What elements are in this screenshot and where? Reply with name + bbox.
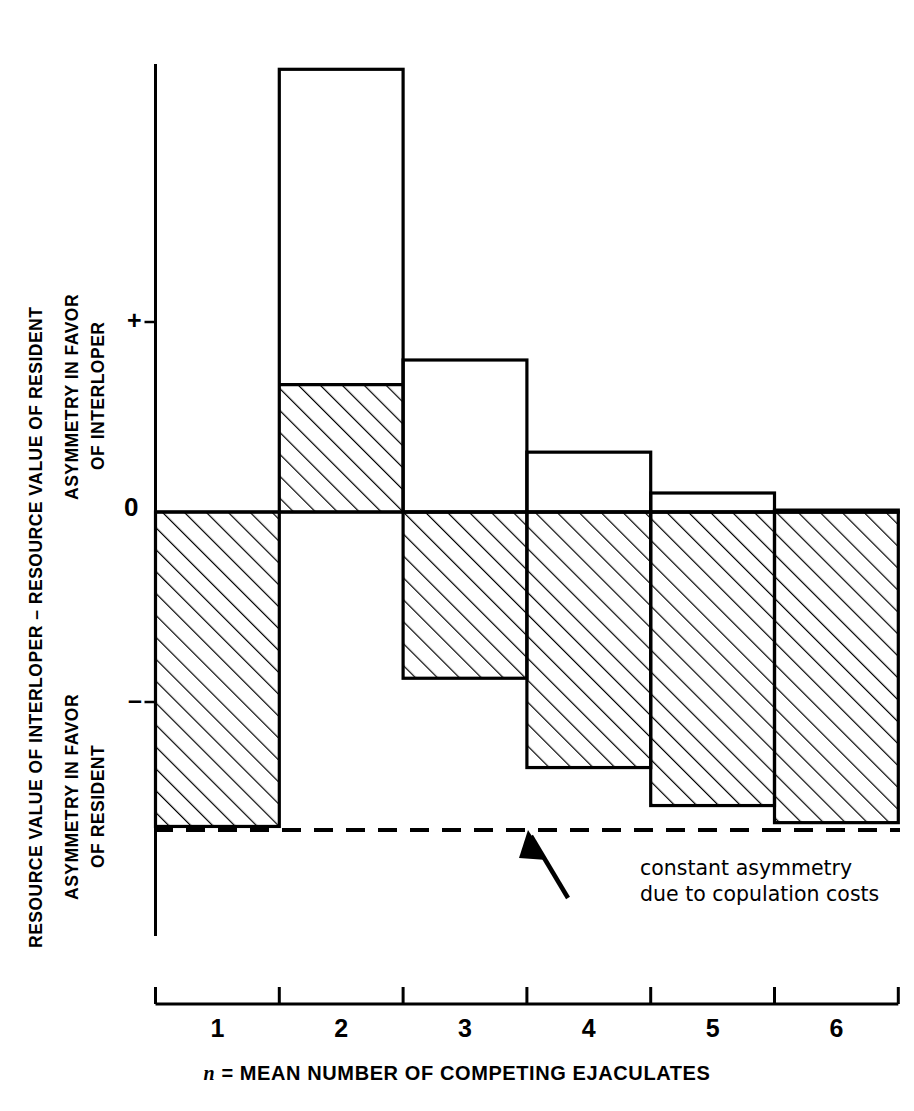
constant-asymmetry-annotation: constant asymmetry due to copulation cos… xyxy=(640,856,879,907)
bar-positive-hatch xyxy=(279,385,403,512)
x-tick-label-3: 3 xyxy=(445,1014,485,1043)
x-axis-title: n = MEAN NUMBER OF COMPETING EJACULATES xyxy=(0,1062,914,1085)
chart-figure: RESOURCE VALUE OF INTERLOPER – RESOURCE … xyxy=(0,0,914,1111)
x-tick-label-2: 2 xyxy=(321,1014,361,1043)
x-axis-title-italic-n: n xyxy=(204,1062,216,1084)
bar-negative-hatch xyxy=(527,512,651,768)
x-tick-label-5: 5 xyxy=(693,1014,733,1043)
bar-negative-hatch xyxy=(651,512,775,806)
x-tick-label-4: 4 xyxy=(569,1014,609,1043)
bar-negative-hatch xyxy=(156,512,280,826)
bar-positive-outline xyxy=(527,452,651,512)
x-axis-title-rest: = MEAN NUMBER OF COMPETING EJACULATES xyxy=(215,1062,710,1084)
bar-positive-outline xyxy=(651,493,775,512)
x-tick-label-6: 6 xyxy=(816,1014,856,1043)
x-tick-label-1: 1 xyxy=(197,1014,237,1043)
x-axis xyxy=(156,987,899,1004)
bar-positive-outline xyxy=(403,360,527,512)
bars-group xyxy=(156,69,899,826)
bar-negative-hatch xyxy=(775,512,899,823)
annotation-line-2: due to copulation costs xyxy=(640,882,879,908)
y-tick-marks xyxy=(145,322,156,702)
annotation-arrow-icon xyxy=(519,830,568,898)
plot-area xyxy=(0,0,914,1111)
bar-negative-hatch xyxy=(403,512,527,678)
annotation-line-1: constant asymmetry xyxy=(640,856,879,882)
